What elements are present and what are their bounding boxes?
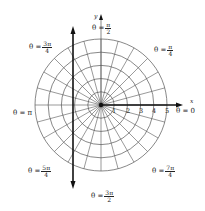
angle-label-5pi-over-4: θ = 5π4 xyxy=(28,165,51,178)
ray xyxy=(84,105,101,169)
vertical-line-up-arrow-icon xyxy=(71,26,76,34)
angle-label-pi-over-4: θ = π4 xyxy=(154,44,173,57)
angle-label-3pi-over-4: θ = 3π4 xyxy=(29,41,52,54)
ray xyxy=(101,41,118,105)
ray xyxy=(54,105,101,152)
radial-tick-5: 5 xyxy=(165,107,169,115)
ray xyxy=(54,58,101,105)
angle-label-pi-over-2: θ = π2 xyxy=(92,22,111,35)
origin-dot xyxy=(99,103,103,107)
vertical-line-down-arrow-icon xyxy=(71,181,76,189)
y-axis-arrow-icon xyxy=(99,14,103,20)
y-axis-label: y xyxy=(94,12,97,19)
x-axis-label: x xyxy=(190,97,193,104)
ray xyxy=(37,88,101,105)
ray xyxy=(101,58,148,105)
radial-tick-2: 2 xyxy=(126,107,130,115)
angle-label-0: θ = 0 xyxy=(176,108,195,115)
angle-label-pi: θ = π xyxy=(13,110,32,117)
ray xyxy=(84,41,101,105)
radial-tick-1: 1 xyxy=(112,107,116,115)
ray xyxy=(37,105,101,122)
radial-tick-4: 4 xyxy=(152,107,156,115)
angle-label-7pi-over-4: θ = 7π4 xyxy=(152,165,175,178)
ray xyxy=(101,88,165,105)
ray xyxy=(101,48,134,105)
ray xyxy=(101,72,158,105)
radial-tick-3: 3 xyxy=(139,107,143,115)
angle-label-3pi-over-2: θ = 3π2 xyxy=(91,190,114,203)
